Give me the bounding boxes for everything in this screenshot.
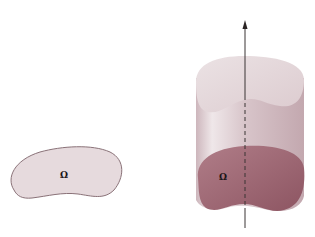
base-region-label: Ω: [219, 172, 227, 182]
planar-region-omega: Ω: [11, 147, 122, 198]
diagram-canvas: Ω Ω: [0, 0, 315, 237]
region-label: Ω: [60, 170, 68, 180]
cylinder-over-omega: Ω: [196, 56, 304, 211]
arrow-head-icon: [243, 20, 248, 29]
